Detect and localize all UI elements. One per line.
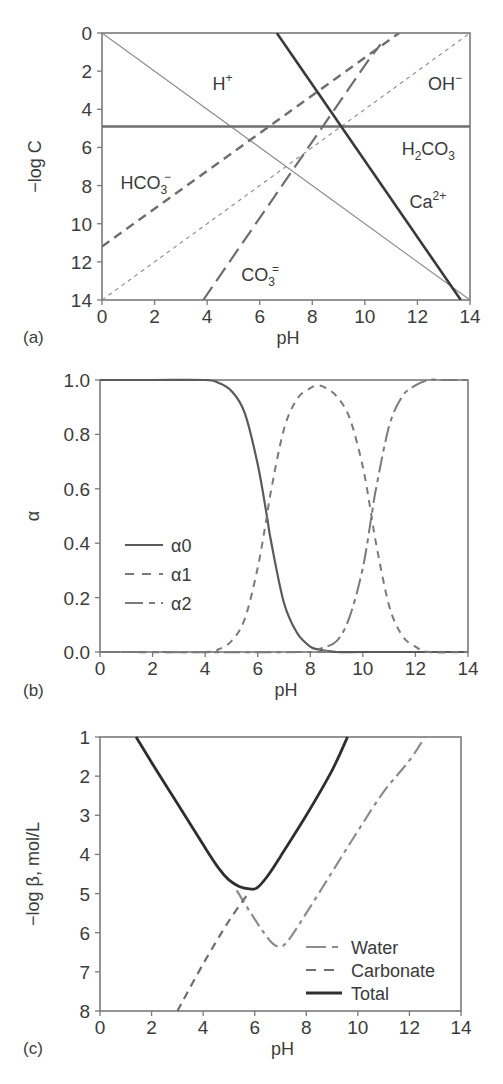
x-tick-label: 12 — [405, 658, 426, 679]
x-tick-label: 8 — [301, 1017, 312, 1038]
y-tick-label: 0.6 — [64, 479, 90, 500]
series-line-water — [237, 737, 425, 947]
y-tick-label: 14 — [71, 290, 93, 311]
x-tick-label: 8 — [305, 658, 316, 679]
series-label-ca2: Ca2+ — [410, 189, 447, 212]
y-tick-label: 0.2 — [64, 588, 90, 609]
y-axis-label: −log C — [25, 140, 45, 193]
y-tick-label: 8 — [81, 176, 92, 197]
series-line-alpha0 — [100, 380, 468, 652]
panel-tag: (c) — [23, 1039, 43, 1058]
legend-label: Total — [351, 984, 389, 1004]
plot-frame — [100, 380, 468, 652]
panel-c-chart: 0246810121412345678pH−log β, mol/L(c)Wat… — [23, 727, 472, 1059]
y-axis-label: α — [23, 511, 43, 521]
legend: WaterCarbonateTotal — [306, 938, 435, 1004]
x-tick-label: 10 — [347, 1017, 368, 1038]
legend-label: α2 — [171, 594, 191, 614]
x-tick-label: 14 — [459, 306, 481, 327]
x-tick-label: 4 — [202, 306, 213, 327]
y-tick-label: 1.0 — [64, 370, 90, 391]
x-tick-label: 2 — [146, 1017, 157, 1038]
series-label-hco3: HCO3− — [120, 170, 171, 197]
x-tick-label: 6 — [254, 306, 265, 327]
series-line-alpha2 — [100, 380, 468, 653]
panel-a-chart: 0246810121402468101214pH−log C(a)H+OH−H2… — [23, 23, 481, 348]
legend: α0α1α2 — [125, 536, 191, 614]
x-tick-label: 12 — [399, 1017, 420, 1038]
y-axis-label: −log β, mol/L — [23, 822, 43, 926]
x-tick-label: 4 — [198, 1017, 209, 1038]
y-tick-label: 4 — [81, 99, 92, 120]
y-tick-label: 7 — [79, 962, 90, 983]
x-axis-label: pH — [271, 1039, 294, 1059]
series-line-total — [136, 737, 347, 889]
x-tick-label: 0 — [97, 306, 108, 327]
y-tick-label: 0.8 — [64, 424, 90, 445]
x-tick-label: 2 — [149, 306, 160, 327]
y-tick-label: 6 — [79, 923, 90, 944]
legend-label: α1 — [171, 565, 191, 585]
x-tick-label: 0 — [95, 1017, 106, 1038]
legend-label: α0 — [171, 536, 191, 556]
x-tick-label: 6 — [249, 1017, 260, 1038]
x-tick-label: 10 — [354, 306, 375, 327]
y-tick-label: 6 — [81, 137, 92, 158]
series-label-h: H+ — [212, 71, 232, 94]
y-tick-label: 0.4 — [64, 533, 91, 554]
series-line-carbonate — [177, 892, 249, 1011]
y-tick-label: 3 — [79, 805, 90, 826]
x-tick-label: 0 — [95, 658, 106, 679]
x-tick-label: 2 — [147, 658, 158, 679]
x-tick-label: 8 — [307, 306, 318, 327]
series-line-ca2 — [277, 33, 461, 300]
x-tick-label: 14 — [457, 658, 479, 679]
y-tick-label: 4 — [79, 844, 90, 865]
panel-tag: (a) — [23, 328, 44, 347]
y-tick-label: 2 — [81, 61, 92, 82]
series-label-h2co3: H2CO3 — [402, 139, 456, 163]
x-tick-label: 12 — [407, 306, 428, 327]
legend-label: Carbonate — [351, 961, 435, 981]
figure: 0246810121402468101214pH−log C(a)H+OH−H2… — [0, 0, 503, 1084]
y-tick-label: 1 — [79, 727, 90, 748]
y-tick-label: 10 — [71, 214, 92, 235]
x-tick-label: 14 — [450, 1017, 472, 1038]
legend-label: Water — [351, 938, 398, 958]
y-tick-label: 5 — [79, 884, 90, 905]
panel-tag: (b) — [23, 681, 44, 700]
x-axis-label: pH — [274, 680, 297, 700]
y-tick-label: 0.0 — [64, 642, 90, 663]
x-tick-label: 6 — [252, 658, 263, 679]
y-tick-label: 0 — [81, 23, 92, 44]
y-tick-label: 12 — [71, 252, 92, 273]
series-line-alpha1 — [100, 385, 468, 652]
x-tick-label: 4 — [200, 658, 211, 679]
series-label-co3: CO3= — [241, 262, 279, 289]
panel-b-chart: 024681012140.00.20.40.60.81.0pHα(b)α0α1α… — [23, 370, 479, 700]
y-tick-label: 2 — [79, 766, 90, 787]
x-tick-label: 10 — [352, 658, 373, 679]
x-axis-label: pH — [276, 328, 299, 348]
series-label-oh: OH− — [428, 71, 462, 94]
y-tick-label: 8 — [79, 1001, 90, 1022]
